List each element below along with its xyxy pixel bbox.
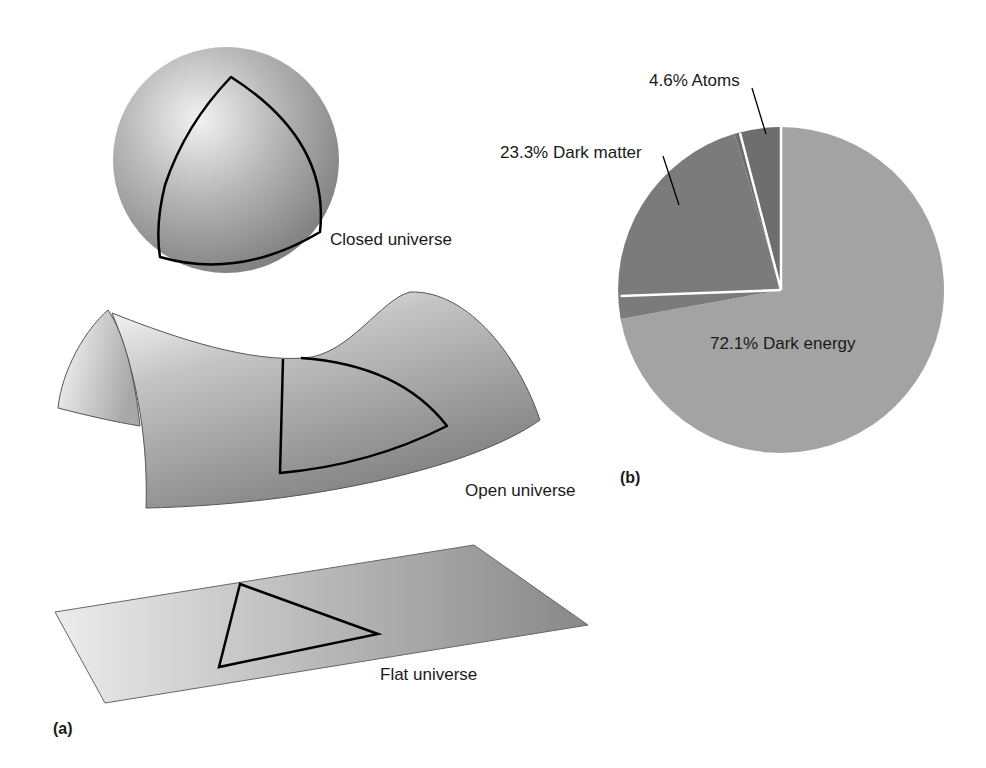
slice-label-atoms: 4.6% Atoms (649, 72, 740, 89)
flat-universe-plane (55, 545, 588, 703)
closed-universe-sphere (113, 47, 339, 273)
saddle-surface (112, 292, 540, 508)
slice-label-dark-energy: 72.1% Dark energy (710, 335, 856, 352)
panel-label-b: (b) (620, 470, 640, 486)
caption-open-universe: Open universe (465, 482, 576, 499)
figure-canvas (0, 0, 986, 768)
leader-line-atoms (752, 88, 766, 134)
open-universe-saddle (58, 292, 540, 508)
caption-closed-universe: Closed universe (330, 231, 452, 248)
plane-surface (55, 545, 588, 703)
composition-pie-chart (618, 88, 944, 453)
slice-label-dark-matter: 23.3% Dark matter (500, 144, 642, 161)
caption-flat-universe: Flat universe (380, 666, 477, 683)
panel-label-a: (a) (53, 721, 73, 737)
